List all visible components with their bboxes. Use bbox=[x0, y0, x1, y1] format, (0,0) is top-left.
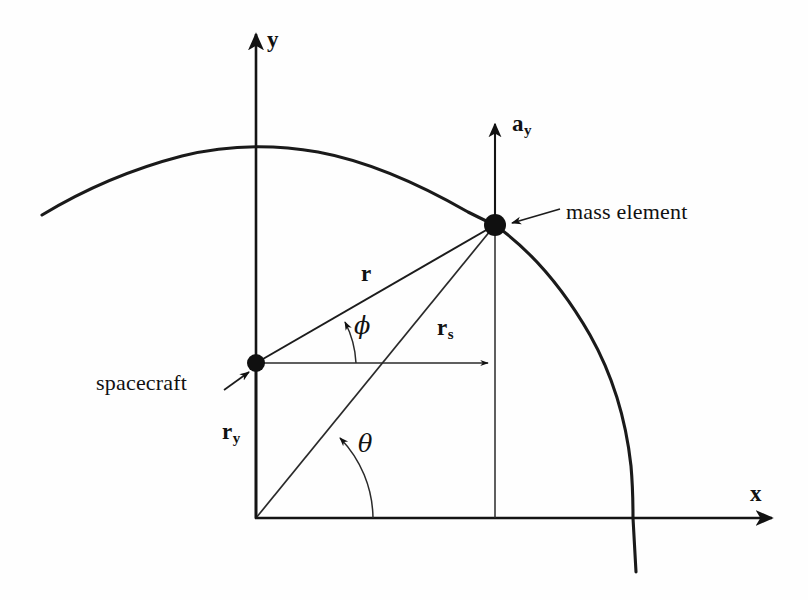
vector-r bbox=[256, 225, 495, 363]
vector-r-s-label: rs bbox=[437, 316, 454, 342]
vector-r-y-label: ry bbox=[222, 420, 240, 446]
y-axis-label: y bbox=[267, 28, 279, 51]
body-surface-curve bbox=[42, 147, 636, 572]
diagram-canvas: y x ay r rs ry ϕ θ spacecraft mass eleme… bbox=[0, 0, 808, 600]
spacecraft-point-marker bbox=[247, 354, 265, 372]
mass-element-label: mass element bbox=[566, 201, 688, 223]
x-axis-label: x bbox=[750, 482, 762, 505]
geometry-diagram bbox=[0, 0, 808, 600]
mass-element-point-marker bbox=[484, 214, 506, 236]
theta-angle-label: θ bbox=[358, 432, 372, 456]
vector-r-s bbox=[256, 225, 495, 518]
mass-element-leader-line bbox=[512, 209, 560, 223]
a-y-axis-label: ay bbox=[512, 112, 532, 138]
spacecraft-label: spacecraft bbox=[96, 372, 187, 394]
phi-angle-label: ϕ bbox=[354, 314, 370, 338]
vector-r-label: r bbox=[361, 262, 371, 285]
spacecraft-leader-line bbox=[224, 372, 249, 390]
